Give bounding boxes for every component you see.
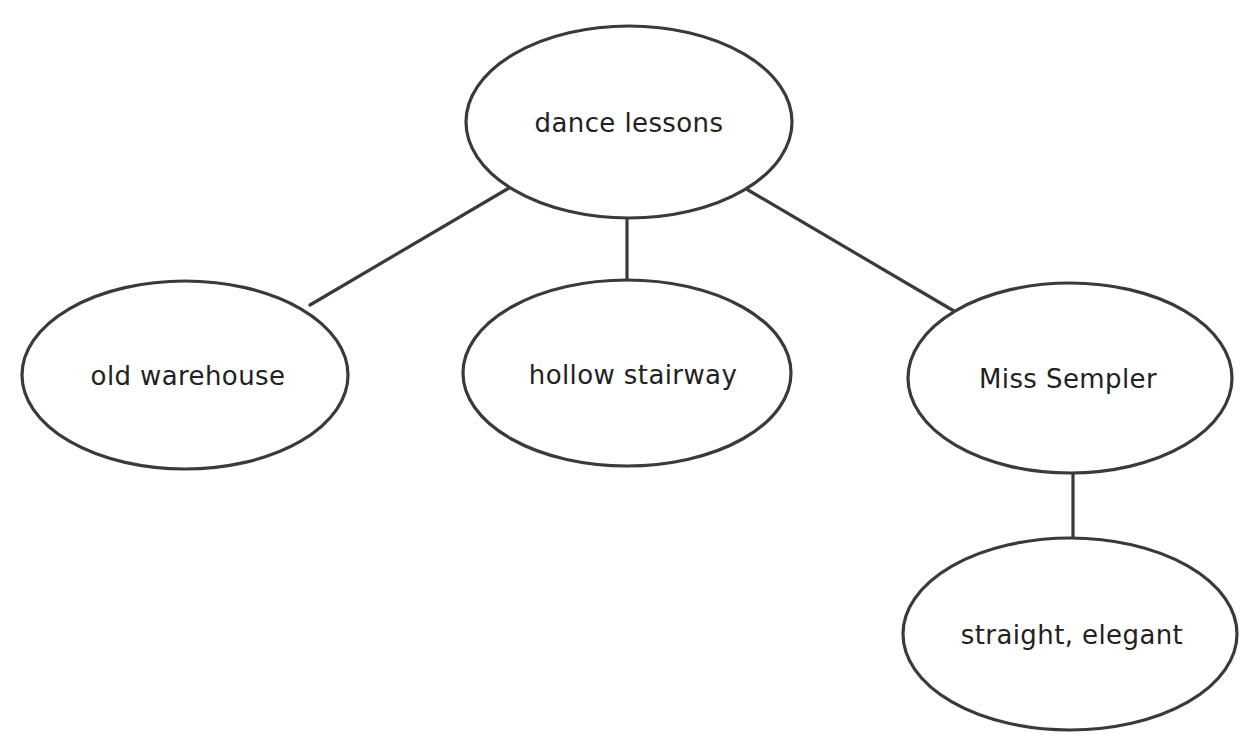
node-dance-lessons[interactable]: dance lessons xyxy=(466,26,792,218)
node-label-straight-elegant: straight, elegant xyxy=(961,620,1183,650)
node-old-warehouse[interactable]: old warehouse xyxy=(22,281,348,469)
node-miss-sempler[interactable]: Miss Sempler xyxy=(908,283,1232,473)
node-label-dance-lessons: dance lessons xyxy=(535,108,724,138)
concept-map-canvas: dance lessons old warehouse hollow stair… xyxy=(0,0,1254,754)
concept-map-svg: dance lessons old warehouse hollow stair… xyxy=(0,0,1254,754)
node-hollow-stairway[interactable]: hollow stairway xyxy=(463,280,791,466)
node-label-miss-sempler: Miss Sempler xyxy=(979,364,1157,394)
node-label-hollow-stairway: hollow stairway xyxy=(529,360,737,390)
node-label-old-warehouse: old warehouse xyxy=(91,361,286,391)
edge-root-to-old-warehouse xyxy=(310,188,509,305)
node-group: dance lessons old warehouse hollow stair… xyxy=(22,26,1237,730)
node-straight-elegant[interactable]: straight, elegant xyxy=(903,538,1237,730)
edge-root-to-miss-sempler xyxy=(748,190,954,311)
